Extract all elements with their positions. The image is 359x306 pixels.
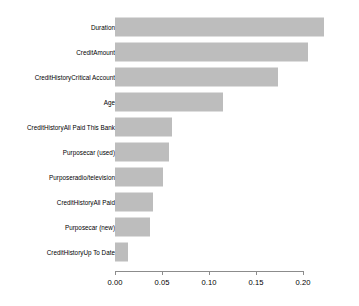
bar-rect [115, 243, 128, 262]
x-axis-tick-label: 0.10 [202, 278, 217, 287]
bar-row: Purposecar (used) [0, 140, 359, 165]
x-axis-tick [303, 271, 304, 275]
x-axis-tick-label: 0.05 [155, 278, 170, 287]
bar-rect [115, 92, 223, 111]
bar-category-label: Purposeradio/television [49, 174, 115, 181]
bar-row: CreditHistoryAll Paid [0, 190, 359, 215]
bar-rect [115, 168, 163, 187]
x-axis-tick [115, 271, 116, 275]
bar-row: Age [0, 89, 359, 114]
x-axis-tick [162, 271, 163, 275]
bar-rect [115, 67, 278, 86]
x-axis-tick [256, 271, 257, 275]
bar-rect [115, 218, 150, 237]
bar-row: CreditHistoryUp To Date [0, 240, 359, 265]
bar-row: Purposeradio/television [0, 165, 359, 190]
bar-row: CreditAmount [0, 39, 359, 64]
variable-importance-chart: Duration CreditAmount CreditHistoryCriti… [0, 0, 359, 306]
bar-row: Purposecar (new) [0, 215, 359, 240]
bar-row: CreditHistoryAll Paid This Bank [0, 114, 359, 139]
x-axis-tick [209, 271, 210, 275]
x-axis-tick-label: 0.00 [108, 278, 123, 287]
bar-category-label: CreditHistoryAll Paid This Bank [27, 123, 115, 130]
bar-category-label: CreditAmount [76, 48, 115, 55]
bar-category-label: Purposecar (used) [63, 149, 115, 156]
bar-rect [115, 143, 169, 162]
bar-category-label: CreditHistoryUp To Date [47, 249, 115, 256]
x-axis-tick-label: 0.20 [296, 278, 311, 287]
bar-category-label: Duration [91, 23, 115, 30]
bar-rect [115, 17, 324, 36]
x-axis-tick-label: 0.15 [249, 278, 264, 287]
bar-row: Duration [0, 14, 359, 39]
bar-rect [115, 117, 172, 136]
bar-rect [115, 42, 308, 61]
bar-category-label: Purposecar (new) [65, 224, 115, 231]
plot-area: Duration CreditAmount CreditHistoryCriti… [0, 0, 359, 306]
bar-category-label: CreditHistoryAll Paid [57, 199, 115, 206]
bar-category-label: Age [104, 98, 115, 105]
bar-rect [115, 193, 153, 212]
bar-category-label: CreditHistoryCritical Account [35, 73, 115, 80]
bar-row: CreditHistoryCritical Account [0, 64, 359, 89]
